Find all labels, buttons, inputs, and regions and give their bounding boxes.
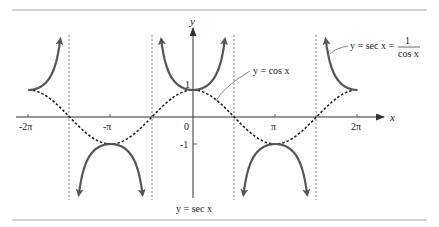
cos-label: y = cos x: [253, 65, 289, 76]
tick-zero: 0: [184, 121, 189, 132]
sec-leader: [330, 46, 348, 54]
tick-y-1: 1: [185, 79, 190, 90]
sec-graph: y x -2π -π 0 π 2π 1 -1 y = cos x y = sec…: [0, 0, 439, 227]
tick-pi: π: [271, 121, 276, 132]
sec-label: y = sec x =: [350, 40, 394, 51]
tick-neg-2pi: -2π: [19, 121, 32, 132]
y-axis-label: y: [189, 15, 195, 27]
sec-label-denominator: cos x: [398, 48, 419, 59]
cos-leader: [216, 71, 250, 101]
tick-2pi: 2π: [351, 121, 361, 132]
x-axis-label: x: [389, 111, 395, 123]
figure-caption: y = sec x: [176, 203, 212, 214]
tick-y-neg1: -1: [180, 139, 188, 150]
tick-neg-pi: -π: [103, 121, 111, 132]
sec-label-numerator: 1: [405, 35, 410, 46]
